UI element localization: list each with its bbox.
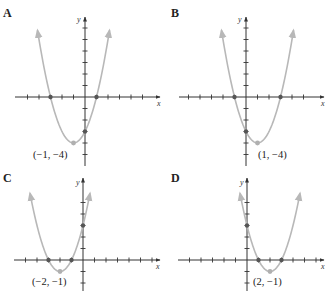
panel-letter-a: A xyxy=(3,6,12,20)
y-axis-label-b: y xyxy=(237,15,242,24)
axes-d xyxy=(178,178,324,291)
key-points-b xyxy=(232,95,282,146)
x-axis-label-b: x xyxy=(320,99,325,108)
vertex-label-a: (−1, −4) xyxy=(33,149,68,161)
parabola-curve-a xyxy=(38,30,110,143)
parabola-left-branch xyxy=(222,30,258,143)
x-intercept-dot xyxy=(46,258,50,262)
x-axis-label-a: x xyxy=(156,99,161,108)
axes-b xyxy=(179,17,324,166)
x-intercept-dot xyxy=(232,95,236,99)
panel-d: D x y (2, −1) xyxy=(171,171,325,291)
vertex-dot xyxy=(268,269,273,274)
axes-c xyxy=(14,178,160,291)
vertex-dot xyxy=(58,269,63,274)
y-intercept-dot xyxy=(244,129,248,133)
y-axis-label-a: y xyxy=(76,15,81,24)
y-axis-label-d: y xyxy=(239,178,244,187)
parabola-right-branch xyxy=(74,30,110,143)
parabola-curve-b xyxy=(222,30,294,143)
x-intercept-dot xyxy=(256,258,260,262)
y-axis-label-c: y xyxy=(75,178,80,187)
y-intercept-dot xyxy=(81,223,85,227)
x-intercept-dot xyxy=(69,258,73,262)
parabola-graphs-figure: A x y (−1, −4) B x y (1, −4) C x y (−2, … xyxy=(0,0,329,291)
panel-c: C x y (−2, −1) xyxy=(3,171,160,291)
vertex-label-b: (1, −4) xyxy=(258,149,287,161)
parabola-right-branch xyxy=(258,30,294,143)
x-axis-label-c: x xyxy=(155,262,160,271)
vertex-label-c: (−2, −1) xyxy=(32,276,67,288)
panel-letter-b: B xyxy=(171,6,179,20)
panel-letter-c: C xyxy=(3,171,12,185)
panel-a: A x y (−1, −4) xyxy=(3,6,161,166)
x-intercept-dot xyxy=(279,258,283,262)
vertex-dot xyxy=(71,141,76,146)
y-intercept-dot xyxy=(245,223,249,227)
key-points-a xyxy=(48,95,98,146)
vertex-dot xyxy=(255,141,260,146)
x-intercept-dot xyxy=(94,95,98,99)
vertex-label-d: (2, −1) xyxy=(253,276,282,288)
axes-a xyxy=(15,17,160,166)
panel-letter-d: D xyxy=(171,171,180,185)
x-axis-label-d: x xyxy=(320,262,325,271)
panel-b: B x y (1, −4) xyxy=(171,6,325,166)
y-intercept-dot xyxy=(83,129,87,133)
x-intercept-dot xyxy=(278,95,282,99)
parabola-left-branch xyxy=(38,30,74,143)
x-intercept-dot xyxy=(48,95,52,99)
